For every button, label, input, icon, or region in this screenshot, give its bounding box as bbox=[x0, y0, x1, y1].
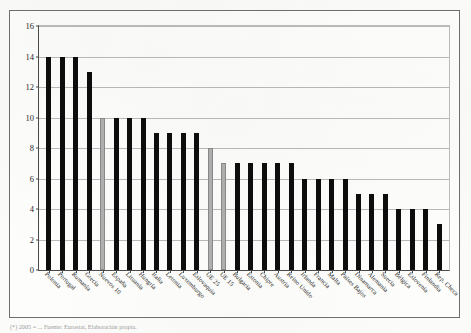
bar-highlight bbox=[100, 118, 105, 271]
x-label-slot: Lituania bbox=[122, 270, 135, 318]
x-label-slot: Letonia bbox=[162, 270, 175, 318]
bar bbox=[343, 179, 348, 271]
x-label-slot: Hungría bbox=[135, 270, 148, 318]
bar bbox=[46, 57, 51, 271]
bar-slot bbox=[123, 26, 136, 270]
bar bbox=[262, 163, 267, 270]
x-label-slot: Nuevos 10 bbox=[95, 270, 108, 318]
bar bbox=[396, 209, 401, 270]
bar-slot bbox=[338, 26, 351, 270]
bar-slot bbox=[217, 26, 230, 270]
bar bbox=[181, 133, 186, 270]
x-label-slot: Suecia bbox=[378, 270, 391, 318]
bar-slot bbox=[284, 26, 297, 270]
x-label-slot: Alemania bbox=[364, 270, 377, 318]
bar-slot bbox=[419, 26, 432, 270]
bar-slot bbox=[298, 26, 311, 270]
x-label-slot: Eslovaquia bbox=[189, 270, 202, 318]
bar-slot bbox=[325, 26, 338, 270]
x-label-slot: Malta bbox=[324, 270, 337, 318]
x-label-slot: Bulgaria bbox=[230, 270, 243, 318]
bar-slot bbox=[406, 26, 419, 270]
bar-slot bbox=[433, 26, 446, 270]
bar bbox=[167, 133, 172, 270]
bar bbox=[87, 72, 92, 270]
bar-slot bbox=[163, 26, 176, 270]
x-label-slot: Rumanía bbox=[68, 270, 81, 318]
x-label-slot: Dinamarca bbox=[351, 270, 364, 318]
bar bbox=[289, 163, 294, 270]
bar bbox=[194, 133, 199, 270]
bar-slot bbox=[55, 26, 68, 270]
x-label-slot: Estonia bbox=[243, 270, 256, 318]
x-label-slot: Países Bajos bbox=[337, 270, 350, 318]
x-label-slot: Rep. Checa bbox=[432, 270, 445, 318]
bar bbox=[154, 133, 159, 270]
y-axis-tick-label: 10 bbox=[26, 113, 35, 122]
bar bbox=[410, 209, 415, 270]
bar-slot bbox=[365, 26, 378, 270]
bar-slot bbox=[69, 26, 82, 270]
bar bbox=[275, 163, 280, 270]
bar-highlight bbox=[208, 148, 213, 270]
bar-slot bbox=[96, 26, 109, 270]
bar bbox=[356, 194, 361, 270]
y-axis-tick-label: 2 bbox=[30, 235, 34, 244]
x-label-slot: Irlanda bbox=[297, 270, 310, 318]
x-label-slot: España bbox=[108, 270, 121, 318]
chart-figure: 0246810121416 PoloniaPortugalRumaníaGrec… bbox=[9, 10, 460, 318]
x-label-slot: Eslovenia bbox=[405, 270, 418, 318]
bar bbox=[316, 179, 321, 271]
bar-slot bbox=[177, 26, 190, 270]
bar-slot bbox=[190, 26, 203, 270]
bar-slot bbox=[258, 26, 271, 270]
y-axis-tick-label: 14 bbox=[26, 52, 35, 61]
bar bbox=[383, 194, 388, 270]
bar bbox=[423, 209, 428, 270]
bar-slot bbox=[82, 26, 95, 270]
bar-slot bbox=[379, 26, 392, 270]
bar-slot bbox=[150, 26, 163, 270]
bar-slot bbox=[136, 26, 149, 270]
x-label-slot: Austria bbox=[270, 270, 283, 318]
bar-slot bbox=[109, 26, 122, 270]
bar-series bbox=[39, 26, 449, 270]
x-axis-labels: PoloniaPortugalRumaníaGreciaNuevos 10Esp… bbox=[38, 270, 448, 318]
x-label-slot: Bélgica bbox=[391, 270, 404, 318]
x-label-slot: UE 15 bbox=[216, 270, 229, 318]
bar bbox=[60, 57, 65, 271]
x-label-slot: Portugal bbox=[54, 270, 67, 318]
y-axis-tick-label: 12 bbox=[26, 83, 35, 92]
bar bbox=[437, 224, 442, 270]
y-axis-tick-label: 16 bbox=[26, 22, 35, 31]
bar bbox=[248, 163, 253, 270]
x-label-slot: Chipre bbox=[257, 270, 270, 318]
bar bbox=[369, 194, 374, 270]
x-label-slot: Luxemburgo bbox=[176, 270, 189, 318]
x-label-slot: Finlandia bbox=[418, 270, 431, 318]
figure-footnote: (*) 2005 = ... Fuente: Eurostat, Elabora… bbox=[10, 322, 310, 331]
plot-area: 0246810121416 bbox=[38, 25, 450, 271]
bar bbox=[302, 179, 307, 271]
bar bbox=[329, 179, 334, 271]
y-axis-tick-label: 0 bbox=[30, 266, 34, 275]
bar-slot bbox=[42, 26, 55, 270]
y-axis-tick-label: 6 bbox=[30, 174, 34, 183]
x-label-slot: Italia bbox=[149, 270, 162, 318]
bar bbox=[114, 118, 119, 271]
x-label-slot: Polonia bbox=[41, 270, 54, 318]
bar bbox=[73, 57, 78, 271]
bar-highlight bbox=[221, 163, 226, 270]
bar-slot bbox=[204, 26, 217, 270]
bar bbox=[127, 118, 132, 271]
bar-slot bbox=[352, 26, 365, 270]
bar-slot bbox=[271, 26, 284, 270]
x-label-slot: Grecia bbox=[81, 270, 94, 318]
x-label-slot: UE 25 bbox=[203, 270, 216, 318]
bar-slot bbox=[392, 26, 405, 270]
bar-slot bbox=[244, 26, 257, 270]
y-axis-tick-label: 4 bbox=[30, 205, 34, 214]
bar bbox=[141, 118, 146, 271]
bar-slot bbox=[311, 26, 324, 270]
y-axis-tick-label: 8 bbox=[30, 144, 34, 153]
